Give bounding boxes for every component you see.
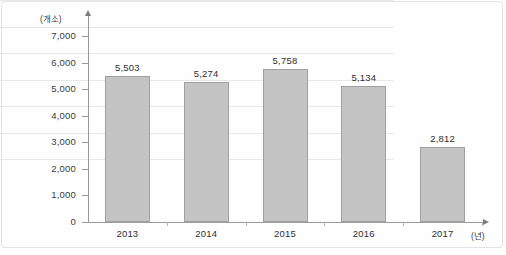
bar[interactable]: [184, 82, 229, 222]
x-axis-category-label: 2015: [255, 228, 315, 239]
y-axis-tick-label: 6,000: [30, 57, 76, 68]
y-axis-tick-label: 5,000: [30, 83, 76, 94]
bar-value-label: 5,503: [97, 62, 157, 73]
x-axis-tick: [403, 222, 404, 226]
x-axis-category-label: 2016: [334, 228, 394, 239]
gridline: [0, 27, 394, 28]
y-axis-tick-label: 0: [30, 216, 76, 227]
bar-value-label: 2,812: [413, 133, 473, 144]
bar[interactable]: [341, 86, 386, 222]
y-axis-tick-label: 2,000: [30, 163, 76, 174]
y-axis-tick-label: 3,000: [30, 136, 76, 147]
bar-value-label: 5,274: [176, 68, 236, 79]
y-axis-tick-label: 4,000: [30, 110, 76, 121]
y-axis-line: [88, 14, 89, 223]
x-axis-category-label: 2017: [413, 228, 473, 239]
bar-value-label: 5,758: [255, 55, 315, 66]
y-axis-unit-label: (개소): [40, 12, 62, 24]
bar[interactable]: [105, 76, 150, 222]
bar[interactable]: [420, 147, 465, 222]
x-axis-tick: [482, 222, 483, 226]
bar[interactable]: [263, 69, 308, 222]
gridline: [0, 53, 394, 54]
bar-chart-figure: (개소) (년) 7,0006,0005,0004,0003,0002,0001…: [0, 0, 506, 255]
y-axis-arrow-icon: [85, 10, 91, 16]
x-axis-tick: [246, 222, 247, 226]
gridline: [0, 0, 394, 1]
x-axis-arrow-icon: [483, 219, 489, 225]
x-axis-category-label: 2014: [176, 228, 236, 239]
y-axis-tick-label: 7,000: [30, 30, 76, 41]
y-axis-tick-label: 1,000: [30, 189, 76, 200]
x-axis-line: [88, 222, 485, 223]
x-axis-unit-label: (년): [471, 229, 485, 241]
x-axis-category-label: 2013: [97, 228, 157, 239]
x-axis-tick: [324, 222, 325, 226]
x-axis-tick: [167, 222, 168, 226]
bar-value-label: 5,134: [334, 72, 394, 83]
